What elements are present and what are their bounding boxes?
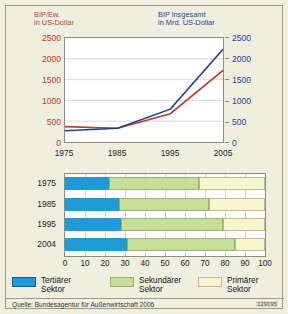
x-tick-2005: 2005 bbox=[203, 148, 243, 158]
legend-label-tertiaer: Tertiärer Sektor bbox=[41, 276, 71, 295]
x-tick-1985: 1985 bbox=[97, 148, 137, 158]
bar-segment-primaerer-sektor[interactable] bbox=[199, 177, 265, 190]
figure-frame: BIP/Ew. in US-Dollar BIP insgesamt in Mr… bbox=[5, 5, 283, 309]
tick-mark-right-2500 bbox=[225, 37, 229, 38]
legend-label-sekundaer: Sekundärer Sektor bbox=[139, 276, 181, 295]
line-chart-plot-area bbox=[64, 37, 224, 143]
bar-segment-tertiaerer-sektor[interactable] bbox=[65, 218, 121, 231]
bar-segment-tertiaerer-sektor[interactable] bbox=[65, 198, 119, 211]
bar-row[interactable] bbox=[65, 238, 265, 251]
y-tick-right-2000: 2000 bbox=[232, 54, 272, 64]
bar-row[interactable] bbox=[65, 177, 265, 190]
x-tick-1975: 1975 bbox=[44, 148, 84, 158]
legend-item-sekundaer[interactable]: Sekundärer Sektor bbox=[110, 276, 181, 295]
bar-row-label-2004: 2004 bbox=[20, 239, 56, 249]
source-text: Quelle: Bundesagentur für Außenwirtschaf… bbox=[12, 301, 154, 308]
bar-row-label-1975: 1975 bbox=[20, 178, 56, 188]
source-code: 129095 bbox=[256, 301, 278, 307]
legend-label-primaer: Primärer Sektor bbox=[227, 276, 258, 295]
bar-segment-sekundaerer-sektor[interactable] bbox=[127, 238, 235, 251]
bar-x-tick-100: 100 bbox=[253, 259, 277, 268]
bar-segment-sekundaerer-sektor[interactable] bbox=[121, 218, 223, 231]
bar-segment-sekundaerer-sektor[interactable] bbox=[119, 198, 209, 211]
y-tick-left-500: 500 bbox=[21, 117, 61, 127]
y-tick-left-2000: 2000 bbox=[21, 54, 61, 64]
tick-mark-right-500 bbox=[225, 122, 229, 123]
y-tick-right-2500: 2500 bbox=[232, 33, 272, 43]
y-tick-right-1500: 1500 bbox=[232, 75, 272, 85]
tick-mark-right-1000 bbox=[225, 101, 229, 102]
y-tick-left-0: 0 bbox=[21, 138, 61, 148]
y-tick-right-500: 500 bbox=[232, 117, 272, 127]
legend-swatch-tertiaer bbox=[12, 277, 36, 287]
x-tick-1995: 1995 bbox=[150, 148, 190, 158]
legend-item-primaer[interactable]: Primärer Sektor bbox=[198, 276, 258, 295]
y-tick-left-2500: 2500 bbox=[21, 33, 61, 43]
bar-row[interactable] bbox=[65, 198, 265, 211]
bar-segment-primaerer-sektor[interactable] bbox=[235, 238, 265, 251]
y-tick-left-1500: 1500 bbox=[21, 75, 61, 85]
chart-figure: BIP/Ew. in US-Dollar BIP insgesamt in Mr… bbox=[0, 0, 288, 314]
legend-swatch-primaer bbox=[198, 277, 222, 287]
legend-swatch-sekundaer bbox=[110, 277, 134, 287]
right-axis-caption: BIP insgesamt in Mrd. US-Dollar bbox=[158, 11, 215, 28]
legend-item-tertiaer[interactable]: Tertiärer Sektor bbox=[12, 276, 71, 295]
bar-segment-tertiaerer-sektor[interactable] bbox=[65, 177, 109, 190]
line-chart-panel: BIP/Ew. in US-Dollar BIP insgesamt in Mr… bbox=[6, 6, 284, 166]
bar-row-label-1995: 1995 bbox=[20, 219, 56, 229]
left-axis-caption: BIP/Ew. in US-Dollar bbox=[34, 11, 74, 28]
bar-row-label-1985: 1985 bbox=[20, 199, 56, 209]
tick-mark-right-1500 bbox=[225, 79, 229, 80]
bar-segment-tertiaerer-sektor[interactable] bbox=[65, 238, 127, 251]
source-bar: Quelle: Bundesagentur für Außenwirtschaf… bbox=[6, 298, 284, 310]
bar-chart-plot-area bbox=[64, 173, 266, 257]
bar-segment-primaerer-sektor[interactable] bbox=[209, 198, 265, 211]
y-tick-right-0: 0 bbox=[232, 138, 272, 148]
bar-segment-primaerer-sektor[interactable] bbox=[223, 218, 265, 231]
y-tick-right-1000: 1000 bbox=[232, 96, 272, 106]
bar-segment-sekundaerer-sektor[interactable] bbox=[109, 177, 199, 190]
bar-row[interactable] bbox=[65, 218, 265, 231]
line-chart-svg bbox=[65, 38, 223, 142]
bar-chart-panel: 1975198519952004 0102030405060708090100 bbox=[6, 166, 284, 274]
chart-legend: Tertiärer SektorSekundärer SektorPrimäre… bbox=[6, 274, 284, 298]
tick-mark-right-0 bbox=[225, 142, 229, 143]
tick-mark-right-2000 bbox=[225, 58, 229, 59]
y-tick-left-1000: 1000 bbox=[21, 96, 61, 106]
